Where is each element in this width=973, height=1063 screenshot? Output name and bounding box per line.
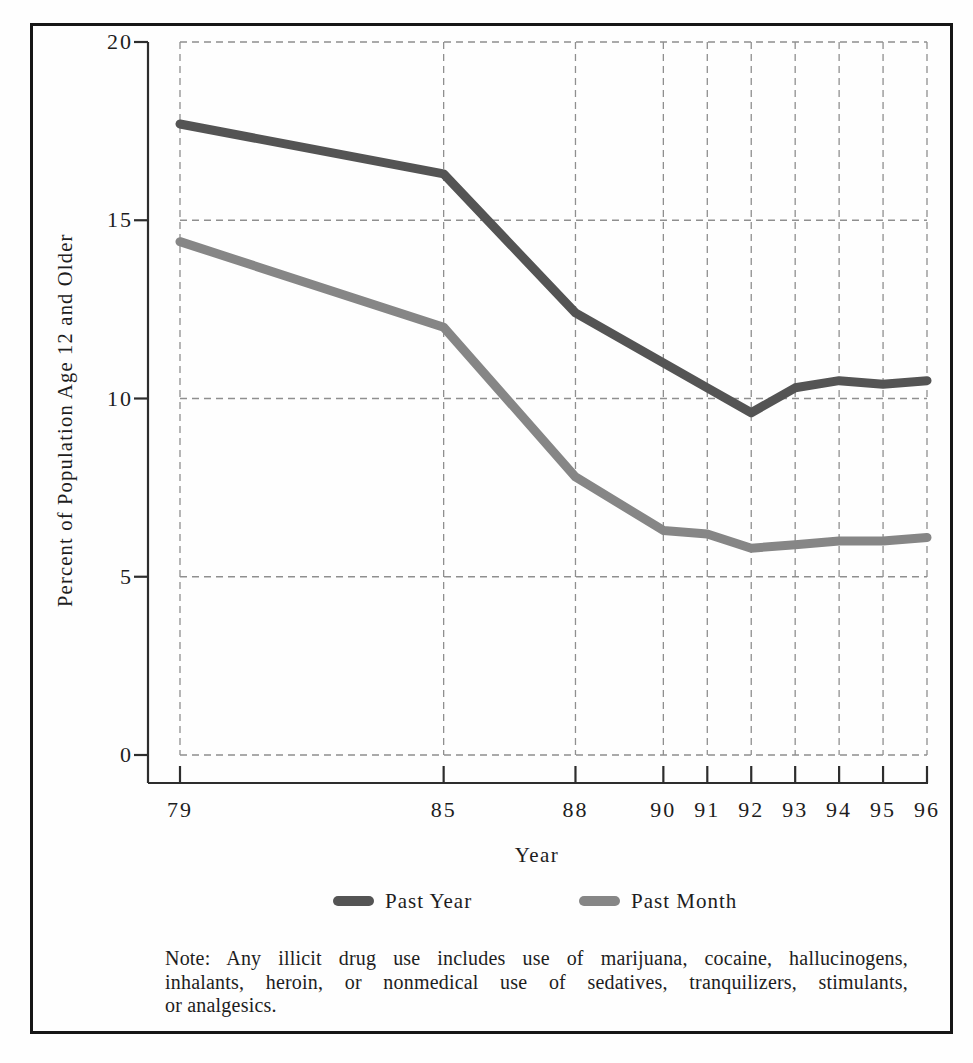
x-tick-label: 95 xyxy=(870,797,896,822)
x-tick-label: 96 xyxy=(914,797,940,822)
footnote-line-1: Note: Any illicit drug use includes use … xyxy=(165,947,908,971)
x-tick-label: 92 xyxy=(738,797,764,822)
y-axis-label: Percent of Population Age 12 and Older xyxy=(54,233,77,607)
past-month-line-swatch xyxy=(579,896,620,906)
y-tick-label: 15 xyxy=(107,207,133,232)
chart-svg: 0510152079858890919293949596 xyxy=(0,0,973,1063)
legend-item-past-year: Past Year xyxy=(333,889,472,913)
x-tick-label: 88 xyxy=(562,797,588,822)
footnote-line-2: inhalants, heroin, or nonmedical use of … xyxy=(165,971,908,995)
legend-item-past-month: Past Month xyxy=(579,889,737,913)
past-year-line-swatch xyxy=(333,896,374,906)
legend-label-past-year: Past Year xyxy=(385,889,472,914)
footnote: Note: Any illicit drug use includes use … xyxy=(165,947,908,1018)
y-tick-label: 5 xyxy=(120,564,133,589)
legend-label-past-month: Past Month xyxy=(631,889,737,914)
x-tick-label: 91 xyxy=(694,797,720,822)
footnote-line-3: or analgesics. xyxy=(165,994,908,1018)
y-tick-label: 20 xyxy=(107,29,133,54)
y-tick-label: 0 xyxy=(120,742,133,767)
x-tick-label: 94 xyxy=(826,797,852,822)
x-axis-label: Year xyxy=(437,843,637,868)
y-tick-label: 10 xyxy=(107,386,133,411)
figure-page: 0510152079858890919293949596 Percent of … xyxy=(0,0,973,1063)
x-tick-label: 79 xyxy=(167,797,193,822)
series-line-past-year xyxy=(180,124,927,413)
x-tick-label: 90 xyxy=(650,797,676,822)
x-tick-label: 85 xyxy=(431,797,457,822)
x-tick-label: 93 xyxy=(782,797,808,822)
